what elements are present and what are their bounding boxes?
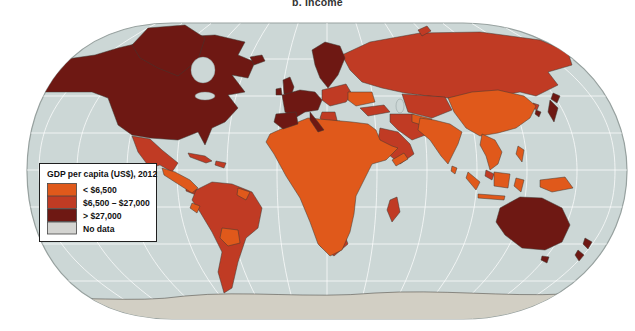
legend-item-nodata: No data [47, 222, 149, 235]
swatch-nodata [48, 222, 77, 234]
hudson-bay [191, 57, 215, 83]
legend: GDP per capita (US$), 2012 < $6,500 $6,5… [39, 163, 157, 242]
legend-label-high: > $27,000 [77, 211, 121, 221]
legend-item-middle: $6,500 – $27,000 [47, 196, 149, 209]
legend-swatch-middle [47, 196, 77, 209]
figure-panel: b. Income [0, 0, 635, 331]
region-borneo [494, 172, 510, 188]
great-lakes [195, 92, 215, 100]
swatch-high [48, 209, 77, 222]
swatch-low [48, 184, 77, 197]
legend-label-nodata: No data [77, 224, 115, 234]
legend-label-low: < $6,500 [77, 185, 117, 195]
legend-swatch-low [47, 183, 77, 196]
legend-item-low: < $6,500 [47, 183, 149, 196]
legend-swatch-nodata [47, 222, 77, 235]
caspian-sea [396, 99, 404, 113]
legend-title: GDP per capita (US$), 2012 [47, 169, 149, 179]
region-ireland [276, 88, 282, 95]
legend-label-middle: $6,500 – $27,000 [77, 198, 150, 208]
swatch-middle [48, 196, 77, 209]
legend-item-high: > $27,000 [47, 209, 149, 222]
legend-swatch-high [47, 209, 77, 222]
